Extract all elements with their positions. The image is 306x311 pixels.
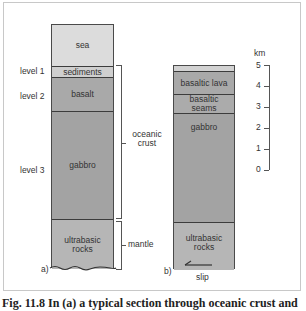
- layer-ultrabasic-b-label: ultrabasic rocks: [182, 234, 226, 252]
- mantle-pointer: [122, 245, 126, 246]
- scale-tick-1: 1: [256, 144, 261, 153]
- layer-gabbro: gabbro: [52, 112, 113, 220]
- scale-tick-0: 0: [256, 165, 261, 174]
- panel-a-label: a): [41, 265, 49, 274]
- layer-basaltic-lava: basaltic lava: [174, 72, 234, 95]
- scale-tick-mark-4: [264, 86, 269, 87]
- slip-arrow-icon: [184, 260, 214, 268]
- scale-axis: [269, 65, 270, 170]
- scale-unit-label: km: [254, 49, 265, 58]
- figure-caption: Fig. 11.8 In (a) a typical section throu…: [2, 296, 298, 311]
- layer-ultrabasic-label: ultrabasic rocks: [61, 236, 105, 254]
- scale-tick-mark-3: [264, 107, 269, 108]
- level-2-label: level 2: [20, 92, 45, 101]
- mantle-label: mantle: [128, 240, 154, 249]
- layer-basaltic-seams: basaltic seams: [174, 95, 234, 114]
- scale-tick-mark-2: [264, 128, 269, 129]
- column-b: basaltic lava basaltic seams gabbro ultr…: [173, 65, 235, 269]
- layer-gabbro-label: gabbro: [69, 161, 95, 170]
- slip-label: slip: [196, 273, 209, 282]
- layer-sediments: sediments: [52, 67, 113, 78]
- layer-basaltic-lava-label: basaltic lava: [181, 79, 228, 88]
- oceanic-crust-label: oceanic crust: [128, 130, 166, 148]
- scale-tick-5: 5: [256, 61, 261, 70]
- layer-sea-label: sea: [76, 41, 90, 50]
- scale-tick-mark-5: [264, 65, 269, 66]
- scale-tick-4: 4: [256, 81, 261, 90]
- layer-sediments-label: sediments: [63, 68, 102, 77]
- layer-gabbro-b-label: gabbro: [191, 123, 217, 132]
- layer-sea: sea: [52, 25, 113, 67]
- scale-tick-mark-0: [264, 170, 269, 171]
- scale-tick-mark-1: [264, 149, 269, 150]
- column-a: sea sediments basalt gabbro ultrabasic r…: [51, 24, 114, 268]
- level-3-label: level 3: [20, 166, 45, 175]
- oceanic-crust-pointer: [122, 143, 126, 144]
- layer-ultrabasic: ultrabasic rocks: [52, 220, 113, 269]
- scale-tick-3: 3: [256, 102, 261, 111]
- level-1-label: level 1: [20, 67, 45, 76]
- oceanic-crust-bracket: [116, 65, 122, 219]
- scale-tick-2: 2: [256, 123, 261, 132]
- layer-basalt: basalt: [52, 78, 113, 112]
- layer-basaltic-seams-label: basaltic seams: [184, 95, 224, 113]
- layer-gabbro-b: gabbro: [174, 114, 234, 223]
- panel-b-label: b): [164, 267, 172, 276]
- layer-basalt-label: basalt: [71, 90, 94, 99]
- wavy-base-a: [49, 264, 117, 272]
